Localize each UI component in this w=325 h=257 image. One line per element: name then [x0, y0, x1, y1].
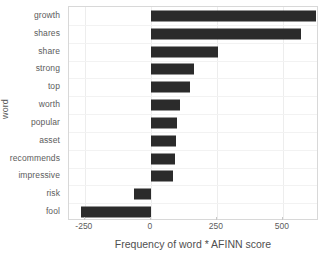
- x-tick-mark: [216, 217, 217, 220]
- gridline-horizontal: [69, 185, 317, 186]
- y-tick-label-impressive: impressive: [18, 170, 60, 180]
- gridline-horizontal: [69, 132, 317, 133]
- bar-asset: [151, 135, 176, 146]
- y-tick-label-recommends: recommends: [10, 153, 60, 163]
- y-tick-label-worth: worth: [39, 99, 60, 109]
- y-tick-label-fool: fool: [46, 206, 60, 216]
- gridline-horizontal: [69, 114, 317, 115]
- gridline-horizontal: [69, 78, 317, 79]
- x-tick-label-0: 0: [147, 221, 152, 231]
- plot-area: [68, 6, 318, 220]
- x-tick-mark: [84, 217, 85, 220]
- x-tick-label-250: 250: [209, 221, 223, 231]
- bar-popular: [151, 117, 177, 128]
- bar-top: [151, 82, 191, 93]
- y-axis-tick-labels: growthsharessharestrongtopworthpopularas…: [0, 6, 64, 220]
- x-axis-tick-labels: -2500250500: [68, 221, 318, 235]
- gridline-horizontal: [69, 96, 317, 97]
- gridline-horizontal: [69, 150, 317, 151]
- y-tick-label-popular: popular: [31, 117, 60, 127]
- y-tick-label-top: top: [48, 81, 60, 91]
- y-tick-label-asset: asset: [39, 135, 60, 145]
- gridline-vertical: [85, 7, 86, 219]
- gridline-horizontal: [69, 168, 317, 169]
- x-tick-mark: [282, 217, 283, 220]
- bar-fool: [81, 207, 151, 218]
- gridline-horizontal: [69, 61, 317, 62]
- x-tick-label-500: 500: [275, 221, 289, 231]
- x-tick-label--250: -250: [75, 221, 92, 231]
- bar-share: [151, 46, 218, 57]
- bar-strong: [151, 64, 195, 75]
- bar-shares: [151, 28, 301, 39]
- bar-growth: [151, 10, 316, 21]
- y-tick-label-risk: risk: [46, 188, 60, 198]
- gridline-horizontal: [69, 43, 317, 44]
- y-tick-label-growth: growth: [34, 10, 60, 20]
- gridline-horizontal: [69, 25, 317, 26]
- x-tick-mark: [150, 217, 151, 220]
- bar-worth: [151, 100, 180, 111]
- bar-risk: [134, 189, 151, 200]
- bar-impressive: [151, 171, 173, 182]
- bar-chart-figure: word growthsharessharestrongtopworthpopu…: [0, 0, 325, 257]
- bar-recommends: [151, 153, 175, 164]
- x-axis-title: Frequency of word * AFINN score: [68, 238, 318, 250]
- y-tick-label-strong: strong: [36, 63, 60, 73]
- y-tick-label-share: share: [38, 46, 60, 56]
- gridline-horizontal: [69, 203, 317, 204]
- y-tick-label-shares: shares: [34, 28, 60, 38]
